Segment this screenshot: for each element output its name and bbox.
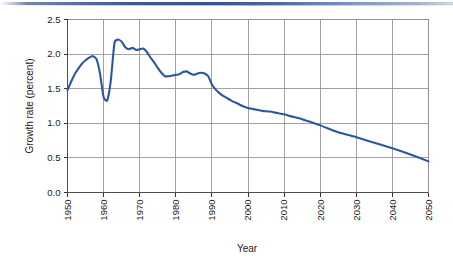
y-tick-label: 1.0 <box>47 117 60 128</box>
x-tick-labels: 1950196019701980199020002010202020302040… <box>62 200 434 221</box>
x-tick-label: 2030 <box>351 200 362 221</box>
growth-rate-figure: 0.00.51.01.52.02.5 195019601970198019902… <box>0 0 453 261</box>
y-tick-labels: 0.00.51.01.52.02.5 <box>47 14 60 198</box>
x-tick-label: 1980 <box>170 200 181 221</box>
x-tick-label: 1990 <box>206 200 217 221</box>
y-tick-label: 2.5 <box>47 14 60 25</box>
x-tick-label: 2020 <box>315 200 326 221</box>
x-tick-label: 2000 <box>242 200 253 221</box>
gridlines <box>68 20 429 193</box>
x-tick-label: 1960 <box>98 200 109 221</box>
x-axis-title: Year <box>237 243 258 254</box>
x-tick-label: 1950 <box>62 200 73 221</box>
y-tick-label: 1.5 <box>47 83 60 94</box>
x-tick-label: 2040 <box>387 200 398 221</box>
y-tick-label: 0.0 <box>47 187 60 198</box>
x-tick-label: 2050 <box>423 200 434 221</box>
x-tick-label: 2010 <box>279 200 290 221</box>
line-chart: 0.00.51.01.52.02.5 195019601970198019902… <box>0 0 453 261</box>
y-tick-label: 0.5 <box>47 152 60 163</box>
y-tick-label: 2.0 <box>47 48 60 59</box>
x-tick-label: 1970 <box>134 200 145 221</box>
y-axis-title: Growth rate (percent) <box>24 58 35 153</box>
